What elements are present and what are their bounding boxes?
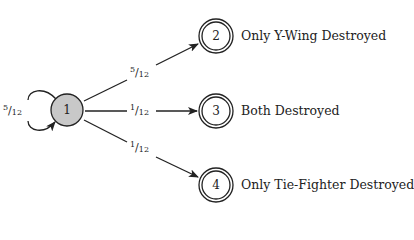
state-2-description: Only Y-Wing Destroyed: [241, 30, 386, 43]
state-3-description: Both Destroyed: [241, 105, 340, 118]
node-4-label: 4: [201, 179, 231, 191]
node-2-label: 2: [201, 30, 231, 42]
state-4-description: Only Tie-Fighter Destroyed: [241, 179, 414, 192]
edge-1-4-a: [84, 120, 127, 142]
edge-1-4-b: [156, 157, 198, 177]
edge-label-1-1: 5/12: [3, 104, 22, 117]
node-3-label: 3: [201, 105, 231, 117]
edge-label-1-4: 1/12: [130, 141, 149, 154]
edge-label-1-3: 1/12: [130, 104, 149, 117]
node-1-label: 1: [52, 104, 82, 116]
edge-1-2-b: [156, 44, 198, 65]
edge-1-2-a: [84, 80, 127, 101]
edge-label-1-2: 5/12: [130, 66, 149, 79]
